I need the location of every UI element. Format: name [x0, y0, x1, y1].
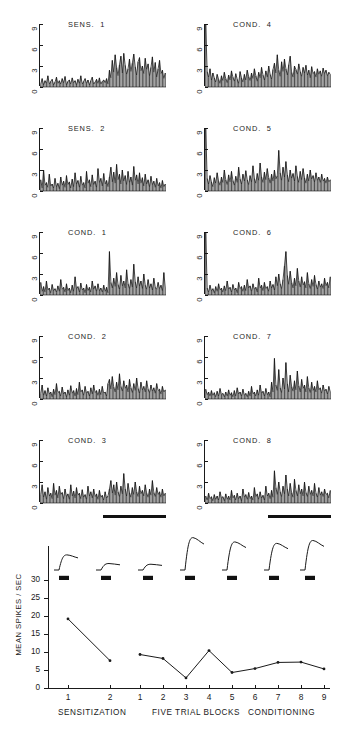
psth-panel-cond-8: COND. 80369	[175, 434, 335, 530]
psth-y-tick-label: 9	[195, 439, 204, 449]
psth-y-tick-label: 0	[30, 86, 39, 96]
psth-y-tick-label: 0	[30, 398, 39, 408]
psth-panel-sens-1: SENS. 10369	[10, 18, 170, 114]
psth-y-tick-label: 3	[30, 65, 39, 75]
psth-y-tick-label: 0	[30, 190, 39, 200]
psth-panel-cond-4: COND. 40369	[175, 18, 335, 114]
psth-y-tick-label: 3	[195, 169, 204, 179]
stimulus-marker	[101, 576, 111, 580]
summary-panel: MEAN SPIKES / SEC 051015202530 121234567…	[0, 542, 341, 742]
psth-y-tick-label: 3	[195, 481, 204, 491]
psth-y-tick-label: 9	[195, 127, 204, 137]
psth-y-tick-label: 9	[30, 335, 39, 345]
psth-histogram	[205, 128, 331, 191]
behavior-trace	[54, 555, 78, 570]
psth-y-tick-label: 9	[195, 335, 204, 345]
data-point	[254, 667, 257, 670]
psth-y-tick-label: 9	[30, 23, 39, 33]
psth-histogram	[205, 440, 331, 503]
psth-y-tick-label: 9	[195, 231, 204, 241]
psth-y-tick-label: 3	[30, 481, 39, 491]
psth-panel-cond-2: COND. 20369	[10, 330, 170, 426]
psth-y-tick-label: 9	[30, 439, 39, 449]
stimulus-marker	[59, 576, 69, 580]
psth-y-tick-label: 0	[195, 398, 204, 408]
data-point	[323, 668, 326, 671]
psth-panel-cond-1: COND. 10369	[10, 226, 170, 322]
stimulus-marker	[227, 576, 237, 580]
behavior-trace	[300, 540, 324, 570]
psth-y-tick-label: 6	[195, 252, 204, 262]
behavior-trace	[138, 564, 162, 570]
psth-histogram	[205, 232, 331, 295]
stimulus-bar	[268, 515, 331, 518]
stimulus-marker	[143, 576, 153, 580]
psth-y-tick-label: 6	[30, 44, 39, 54]
psth-histogram	[205, 24, 331, 87]
psth-panel-grid: SENS. 10369COND. 40369SENS. 20369COND. 5…	[0, 18, 341, 538]
psth-histogram	[205, 336, 331, 399]
psth-y-tick-label: 3	[30, 377, 39, 387]
psth-y-tick-label: 3	[195, 273, 204, 283]
sensitization-series	[68, 619, 110, 661]
data-point	[139, 653, 142, 656]
psth-panel-sens-2: SENS. 20369	[10, 122, 170, 218]
psth-y-tick-label: 6	[195, 460, 204, 470]
data-point	[185, 677, 188, 680]
psth-figure: SENS. 10369COND. 40369SENS. 20369COND. 5…	[0, 0, 341, 756]
stimulus-marker	[185, 576, 195, 580]
psth-histogram	[40, 336, 166, 399]
behavior-trace	[180, 538, 204, 570]
psth-y-tick-label: 9	[195, 23, 204, 33]
behavior-trace	[264, 543, 288, 570]
stimulus-bar	[103, 515, 166, 518]
psth-panel-cond-5: COND. 50369	[175, 122, 335, 218]
psth-y-tick-label: 0	[195, 294, 204, 304]
psth-panel-cond-6: COND. 60369	[175, 226, 335, 322]
psth-y-tick-label: 6	[195, 148, 204, 158]
psth-y-tick-label: 0	[30, 502, 39, 512]
psth-histogram	[40, 440, 166, 503]
data-point	[208, 649, 211, 652]
data-point	[109, 659, 112, 662]
psth-y-tick-label: 3	[195, 65, 204, 75]
psth-y-tick-label: 0	[195, 86, 204, 96]
psth-y-tick-label: 6	[30, 252, 39, 262]
psth-y-tick-label: 9	[30, 127, 39, 137]
psth-y-tick-label: 3	[195, 377, 204, 387]
psth-y-tick-label: 0	[195, 502, 204, 512]
data-point	[162, 657, 165, 660]
psth-y-tick-label: 0	[30, 294, 39, 304]
stimulus-marker	[269, 576, 279, 580]
psth-histogram	[40, 128, 166, 191]
psth-y-tick-label: 3	[30, 273, 39, 283]
data-point	[277, 661, 280, 664]
data-point	[67, 617, 70, 620]
psth-y-tick-label: 6	[195, 44, 204, 54]
stimulus-marker	[305, 576, 315, 580]
psth-y-tick-label: 6	[30, 148, 39, 158]
psth-y-tick-label: 6	[30, 460, 39, 470]
data-point	[300, 661, 303, 664]
behavior-trace	[222, 542, 246, 570]
psth-panel-cond-3: COND. 30369	[10, 434, 170, 530]
psth-y-tick-label: 9	[30, 231, 39, 241]
psth-panel-cond-7: COND. 70369	[175, 330, 335, 426]
psth-y-tick-label: 6	[195, 356, 204, 366]
behavior-trace	[96, 564, 120, 570]
psth-y-tick-label: 3	[30, 169, 39, 179]
psth-histogram	[40, 24, 166, 87]
psth-histogram	[40, 232, 166, 295]
data-point	[231, 671, 234, 674]
psth-y-tick-label: 0	[195, 190, 204, 200]
psth-y-tick-label: 6	[30, 356, 39, 366]
summary-plot-svg	[0, 542, 341, 742]
